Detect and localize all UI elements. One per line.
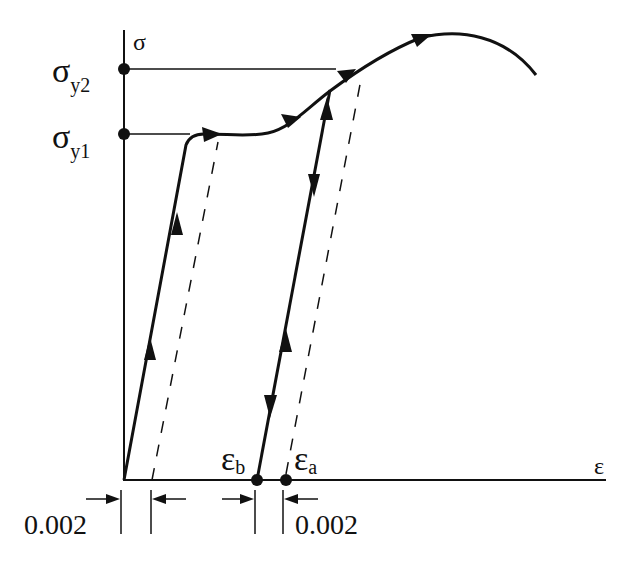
epsilon-a-dot (280, 474, 292, 486)
epsilon-b-dot (251, 474, 263, 486)
arrow-up-icon (144, 337, 156, 360)
dimension-arrowheads (106, 494, 298, 504)
offset-line-2 (286, 74, 362, 474)
arrow-down-icon (264, 395, 277, 418)
epsilon-a-label: εa (294, 440, 317, 478)
sigma-y1-label: σy1 (52, 118, 90, 163)
offset-dimension-left (86, 490, 318, 534)
arrow-up-icon (320, 97, 333, 120)
offset-label-right: 0.002 (295, 509, 358, 540)
direction-arrows (144, 34, 432, 418)
sigma-y1-dot (118, 128, 130, 140)
arrow-right-icon (202, 127, 222, 142)
loading-curve (124, 34, 536, 480)
arrow-right-icon (411, 34, 432, 47)
unload-reload-line (257, 90, 330, 480)
epsilon-axis-label: ε (594, 453, 604, 479)
sigma-y2-label: σy2 (52, 52, 90, 97)
stress-strain-diagram: σ ε σy2 σy1 εb εa (0, 0, 638, 568)
sigma-y2-dot (118, 63, 130, 75)
arrow-up-icon (279, 329, 292, 352)
offset-label-left: 0.002 (24, 509, 87, 540)
offset-line-1 (152, 142, 218, 480)
sigma-axis-label: σ (133, 29, 146, 55)
epsilon-b-label: εb (221, 440, 245, 478)
